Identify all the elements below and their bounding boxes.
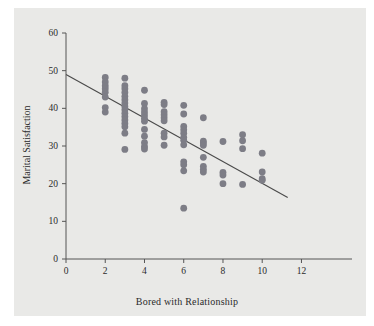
scatter-plot-canvas bbox=[0, 0, 374, 326]
x-tick-label: 8 bbox=[221, 266, 226, 276]
data-point bbox=[239, 145, 246, 152]
x-tick-label: 2 bbox=[103, 266, 108, 276]
data-point bbox=[200, 169, 207, 176]
data-point bbox=[239, 131, 246, 138]
data-point bbox=[161, 142, 168, 149]
y-tick-label: 10 bbox=[36, 216, 58, 226]
data-point bbox=[161, 134, 168, 141]
data-point bbox=[200, 142, 207, 149]
data-point bbox=[141, 118, 148, 125]
y-tick-label: 50 bbox=[36, 66, 58, 76]
data-point bbox=[161, 117, 168, 124]
data-point bbox=[220, 138, 227, 145]
data-point bbox=[180, 102, 187, 109]
data-point bbox=[200, 154, 207, 161]
data-point bbox=[121, 123, 128, 130]
data-point bbox=[141, 146, 148, 153]
data-point bbox=[180, 111, 187, 118]
data-point bbox=[239, 181, 246, 188]
x-tick-label: 0 bbox=[64, 266, 69, 276]
regression-line bbox=[66, 74, 288, 197]
data-point bbox=[259, 169, 266, 176]
data-point bbox=[141, 126, 148, 133]
data-point bbox=[220, 180, 227, 187]
data-point bbox=[180, 205, 187, 212]
data-points-group bbox=[102, 74, 266, 212]
x-tick-label: 6 bbox=[181, 266, 186, 276]
y-tick-label: 40 bbox=[36, 103, 58, 113]
data-point bbox=[121, 130, 128, 137]
data-point bbox=[180, 141, 187, 148]
data-point bbox=[102, 94, 109, 101]
data-point bbox=[180, 167, 187, 174]
y-axis-label-container: Marital Satisfaction bbox=[18, 60, 34, 230]
data-point bbox=[161, 101, 168, 108]
x-tick-label: 10 bbox=[257, 266, 267, 276]
data-point bbox=[141, 133, 148, 140]
data-point bbox=[259, 177, 266, 184]
x-tick-label: 12 bbox=[297, 266, 307, 276]
y-axis-label: Marital Satisfaction bbox=[21, 105, 32, 184]
data-point bbox=[102, 109, 109, 116]
x-tick-label: 4 bbox=[142, 266, 147, 276]
axes-group bbox=[62, 33, 352, 263]
y-tick-label: 60 bbox=[36, 28, 58, 38]
y-tick-label: 30 bbox=[36, 141, 58, 151]
scatter-plot-screenshot: 0246810120102030405060 Marital Satisfact… bbox=[0, 0, 374, 326]
data-point bbox=[121, 75, 128, 82]
data-point bbox=[239, 137, 246, 144]
trendline-group bbox=[66, 74, 288, 197]
data-point bbox=[220, 172, 227, 179]
y-tick-label: 20 bbox=[36, 179, 58, 189]
data-point bbox=[180, 161, 187, 168]
data-point bbox=[121, 146, 128, 153]
data-point bbox=[141, 87, 148, 94]
data-point bbox=[200, 114, 207, 121]
x-axis-label: Bored with Relationship bbox=[0, 296, 374, 307]
data-point bbox=[259, 150, 266, 157]
y-tick-label: 0 bbox=[36, 254, 58, 264]
